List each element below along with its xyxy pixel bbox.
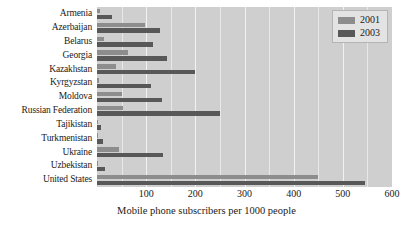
bar-2003 [97, 125, 101, 130]
bar-2003 [97, 28, 160, 33]
bar-2001 [97, 23, 145, 28]
bar-2003 [97, 153, 163, 158]
bar-2003 [97, 42, 153, 47]
category-label: Kazakhstan [0, 62, 96, 76]
bar-2003 [97, 98, 162, 103]
bar-group [97, 145, 392, 159]
bar-2003 [97, 139, 103, 144]
bar-2003 [97, 181, 365, 186]
category-label: Turkmenistan [0, 132, 96, 146]
bar-2003 [97, 167, 105, 172]
x-tick-label: 200 [188, 189, 203, 199]
bar-2001 [97, 64, 116, 69]
category-label: Belarus [0, 35, 96, 49]
bar-group [97, 49, 392, 63]
category-label: Georgia [0, 49, 96, 63]
category-label: Ukraine [0, 145, 96, 159]
bar-2003 [97, 111, 220, 116]
x-tick-label: 100 [139, 189, 154, 199]
value-axis-ticks: 100200300400500600 [97, 187, 392, 203]
x-tick-label: 600 [385, 189, 400, 199]
plot-area: 2001 2003 [97, 7, 392, 187]
bar-2003 [97, 70, 195, 75]
category-label: Uzbekistan [0, 159, 96, 173]
bar-group [97, 173, 392, 187]
bar-2003 [97, 84, 151, 89]
bar-2001 [97, 106, 123, 111]
category-label: United States [0, 173, 96, 187]
bar-group [97, 76, 392, 90]
bar-group [97, 159, 392, 173]
category-axis-labels: ArmeniaAzerbaijanBelarusGeorgiaKazakhsta… [0, 7, 96, 187]
mobile-phone-subscribers-bar-chart: ArmeniaAzerbaijanBelarusGeorgiaKazakhsta… [0, 0, 413, 231]
legend-item-2003[interactable]: 2003 [338, 28, 380, 38]
bar-2001 [97, 92, 122, 97]
legend-swatch-2003-icon [338, 30, 355, 37]
bar-2003 [97, 15, 112, 20]
bar-2001 [97, 147, 119, 152]
x-tick-label: 300 [237, 189, 252, 199]
bar-2001 [97, 9, 100, 14]
bar-2003 [97, 56, 167, 61]
legend: 2001 2003 [332, 10, 388, 43]
x-tick-label: 500 [335, 189, 350, 199]
legend-swatch-2001-icon [338, 17, 355, 24]
category-label: Moldova [0, 90, 96, 104]
category-label: Russian Federation [0, 104, 96, 118]
legend-label-2003: 2003 [360, 28, 380, 38]
bar-group [97, 118, 392, 132]
category-label: Armenia [0, 7, 96, 21]
category-label: Tajikistan [0, 118, 96, 132]
category-label: Azerbaijan [0, 21, 96, 35]
bar-group [97, 132, 392, 146]
bar-2001 [97, 133, 98, 138]
bar-group [97, 90, 392, 104]
bar-2001 [97, 78, 99, 83]
category-label: Kyrgyzstan [0, 76, 96, 90]
bar-2001 [97, 161, 98, 166]
bar-2001 [97, 175, 318, 180]
legend-item-2001[interactable]: 2001 [338, 15, 380, 25]
bar-group [97, 104, 392, 118]
x-tick-label: 400 [286, 189, 301, 199]
x-axis-title: Mobile phone subscribers per 1000 people [0, 206, 413, 217]
bar-2001 [97, 50, 128, 55]
bar-2001 [97, 37, 104, 42]
bar-2001 [97, 120, 98, 125]
bar-group [97, 62, 392, 76]
legend-label-2001: 2001 [360, 15, 380, 25]
